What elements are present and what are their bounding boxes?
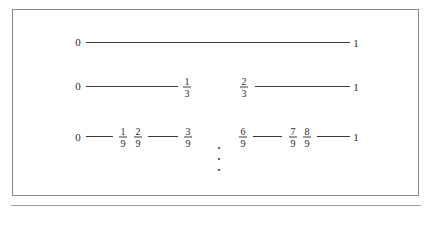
label-0: 0 [75, 81, 81, 92]
ellipsis-dot [218, 169, 220, 171]
fraction-7-9: 7 9 [289, 127, 297, 148]
numerator: 2 [135, 127, 142, 136]
denominator: 9 [135, 139, 142, 148]
label-1: 1 [353, 82, 359, 93]
denominator: 9 [304, 139, 311, 148]
numerator: 8 [304, 127, 311, 136]
label-1: 1 [353, 132, 359, 143]
numerator: 6 [240, 127, 247, 136]
interval-2-3-1 [255, 86, 350, 87]
interval-0-1 [86, 42, 350, 43]
interval-0-1-9 [86, 136, 113, 137]
label-0: 0 [75, 132, 81, 143]
label-1: 1 [353, 38, 359, 49]
fraction-3-9: 3 9 [184, 127, 192, 148]
fraction-2-9: 2 9 [134, 127, 142, 148]
interval-8-9-1 [317, 136, 350, 137]
label-0: 0 [75, 37, 81, 48]
numerator: 1 [184, 77, 191, 86]
ellipsis-dot [218, 158, 220, 160]
numerator: 3 [185, 127, 192, 136]
denominator: 3 [241, 89, 248, 98]
fraction-8-9: 8 9 [303, 127, 311, 148]
numerator: 1 [120, 127, 127, 136]
interval-0-1-3 [86, 86, 178, 87]
denominator: 9 [290, 139, 297, 148]
fraction-1-9: 1 9 [119, 127, 127, 148]
denominator: 9 [185, 139, 192, 148]
ellipsis-dot [218, 147, 220, 149]
fraction-6-9: 6 9 [239, 127, 247, 148]
denominator: 9 [120, 139, 127, 148]
interval-6-9-7-9 [253, 136, 282, 137]
numerator: 2 [241, 77, 248, 86]
interval-2-9-3-9 [148, 136, 178, 137]
denominator: 3 [184, 89, 191, 98]
numerator: 7 [290, 127, 297, 136]
divider-rule [11, 205, 421, 206]
denominator: 9 [240, 139, 247, 148]
fraction-2-3: 2 3 [240, 77, 248, 98]
fraction-1-3: 1 3 [183, 77, 191, 98]
